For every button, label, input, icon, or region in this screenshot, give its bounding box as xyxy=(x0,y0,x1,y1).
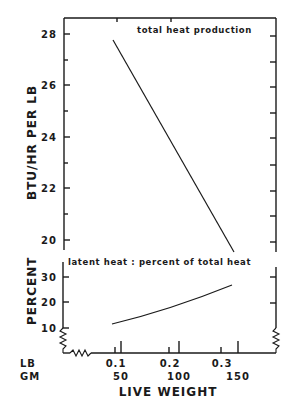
x-axis-label: LIVE WEIGHT xyxy=(119,385,218,399)
ytick-26: 26 xyxy=(41,80,57,91)
unit-gm: GM xyxy=(20,371,40,382)
upper-panel xyxy=(64,18,276,252)
x-tick-labels: LB GM 0.1 0.2 0.3 50 100 150 xyxy=(20,358,250,382)
unit-lb: LB xyxy=(20,358,36,369)
lower-y-axis-label: PERCENT xyxy=(25,257,39,325)
ytick-20-percent: 20 xyxy=(41,297,57,308)
xtick-lb-0-3: 0.3 xyxy=(212,358,233,369)
ytick-24: 24 xyxy=(41,132,57,143)
xtick-gm-50: 50 xyxy=(113,371,129,382)
upper-y-axis-label: BTU/HR PER LB xyxy=(25,85,39,200)
upper-y-tick-labels: 28 26 24 22 20 xyxy=(41,29,57,246)
lower-y-tick-labels: 30 20 10 xyxy=(41,272,57,334)
latent-heat-curve xyxy=(112,285,232,324)
ytick-20: 20 xyxy=(41,235,57,246)
xtick-gm-150: 150 xyxy=(226,371,250,382)
total-heat-line xyxy=(113,40,234,252)
xtick-lb-0-2: 0.2 xyxy=(160,358,181,369)
xtick-lb-0-1: 0.1 xyxy=(106,358,127,369)
xtick-gm-100: 100 xyxy=(167,371,191,382)
ytick-28: 28 xyxy=(41,29,57,40)
upper-panel-title: total heat production xyxy=(137,25,252,35)
ytick-22: 22 xyxy=(41,183,57,194)
ytick-10: 10 xyxy=(41,323,57,334)
chart-figure: 28 26 24 22 20 30 20 10 BTU/HR PER LB PE… xyxy=(0,0,289,417)
lower-panel xyxy=(60,262,279,356)
lower-panel-title: latent heat : percent of total heat xyxy=(68,257,251,267)
ytick-30: 30 xyxy=(41,272,57,283)
